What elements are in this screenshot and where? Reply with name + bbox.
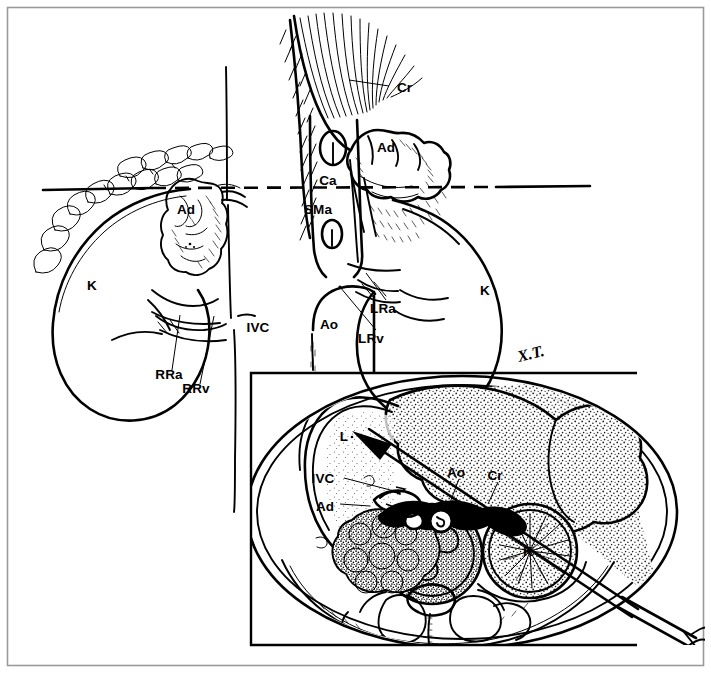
needle-hub-end-2 <box>692 627 709 634</box>
inset-panel: L IVC Ad Ao Cr K <box>247 373 709 652</box>
label-cr-inset: Cr <box>487 468 503 483</box>
needle-hub-upper <box>616 606 690 647</box>
body-wall-line-left-lower <box>228 205 231 318</box>
artist-signature: X.T. <box>515 342 546 365</box>
label-ivc-upper: IVC <box>247 320 270 335</box>
section-line-group <box>43 186 590 190</box>
label-lrv: LRv <box>358 331 384 346</box>
label-l-inset: L <box>340 429 348 444</box>
body-wall-line-left <box>226 67 227 200</box>
flank-marker-2 <box>316 537 327 548</box>
left-adrenal-group <box>161 179 247 275</box>
leader-lrv-dot <box>338 285 341 288</box>
crus-fibers <box>300 13 422 118</box>
left-kidney-group <box>34 67 247 512</box>
upper-panel-labels: Ad K RRa RRv IVC Ao Cr Ad Ca SMa LRa LRv… <box>87 80 490 396</box>
label-ao-upper: Ao <box>320 317 338 332</box>
section-line-solid-right <box>496 186 590 187</box>
right-kidney-hilum-lower <box>394 310 444 321</box>
right-adrenal-fold-4 <box>360 176 412 188</box>
kidney-lower-pole-contour <box>112 332 162 340</box>
leader-rrv <box>200 316 214 384</box>
label-ad-left: Ad <box>177 202 195 217</box>
label-k-inset: K <box>523 544 533 559</box>
body-wall-line-descending <box>234 330 236 512</box>
label-sma: SMa <box>304 202 332 217</box>
left-kidney-hilum <box>152 290 218 306</box>
left-adrenal-fold-3 <box>186 228 207 235</box>
aorta-inset-lumen <box>430 510 452 532</box>
label-lra: LRa <box>370 301 396 316</box>
label-cr-upper: Cr <box>397 80 413 95</box>
label-ad-right: Ad <box>377 140 395 155</box>
label-k-right: K <box>480 283 490 298</box>
label-rra: RRa <box>155 367 183 382</box>
anatomical-figure: Ad K RRa RRv IVC Ao Cr Ad Ca SMa LRa LRv… <box>0 0 711 673</box>
section-line-solid-left <box>43 188 152 190</box>
left-adrenal-fold-5 <box>181 256 205 261</box>
label-ad-inset: Ad <box>316 499 334 514</box>
renal-vessel-band <box>348 264 400 271</box>
ivc-outline <box>238 315 255 317</box>
right-renal-vessel-band-lower <box>160 330 226 341</box>
right-adrenal-fold-3 <box>414 144 420 170</box>
leader-rra <box>172 315 180 370</box>
paraspinal-right <box>450 596 501 642</box>
aorta-upper-outline <box>310 116 326 277</box>
label-ivc-inset: IVC <box>312 471 335 486</box>
label-k-left: K <box>87 278 97 293</box>
right-adrenal-outline <box>347 130 450 202</box>
right-kidney-hilum <box>400 290 448 300</box>
label-ao-inset: Ao <box>447 465 465 480</box>
left-adrenal-vessel-1 <box>222 191 245 197</box>
label-ca: Ca <box>319 173 337 188</box>
perinephric-fat-left <box>34 143 233 273</box>
right-adrenal-fold-1 <box>368 136 373 164</box>
leader-l-dot <box>351 436 354 439</box>
figure-canvas: Ad K RRa RRv IVC Ao Cr Ad Ca SMa LRa LRv… <box>0 0 711 673</box>
aorta-lower-left-wall <box>312 334 313 370</box>
label-rrv: RRv <box>182 381 210 396</box>
